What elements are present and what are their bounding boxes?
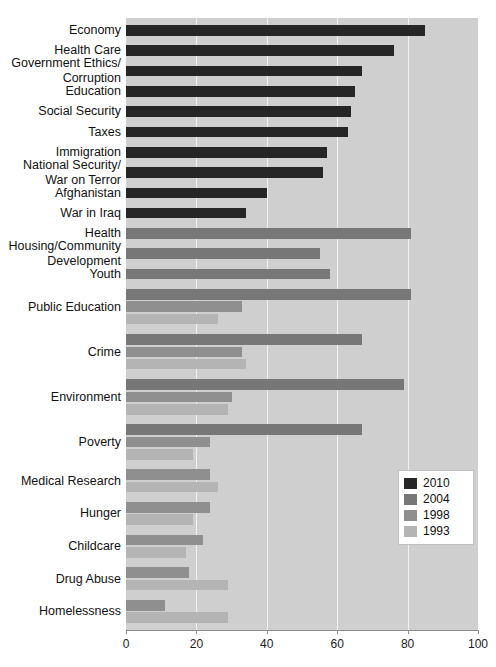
bar-1993	[126, 612, 228, 623]
bar-2010	[126, 127, 348, 138]
category-label: War in Iraq	[0, 206, 121, 221]
bar-2010	[126, 106, 351, 117]
bar-2004	[126, 424, 362, 435]
bar-1998	[126, 502, 210, 513]
bar-2010	[126, 86, 355, 97]
category-label: Childcare	[0, 539, 121, 554]
category-label: Government Ethics/Corruption	[0, 56, 121, 85]
bar-1993	[126, 404, 228, 415]
tick-mark-40	[267, 630, 268, 634]
bar-2004	[126, 379, 404, 390]
category-label: Taxes	[0, 125, 121, 140]
bar-2004	[126, 289, 411, 300]
bar-chart: EconomyHealth CareGovernment Ethics/Corr…	[0, 0, 496, 667]
bar-1993	[126, 314, 218, 325]
bar-row	[126, 106, 478, 117]
bar-row	[126, 188, 478, 199]
bar-1998	[126, 437, 210, 448]
bar-1993	[126, 449, 193, 460]
x-tick-label: 100	[468, 637, 488, 651]
category-label: Crime	[0, 345, 121, 360]
legend-item: 2010	[404, 476, 467, 491]
bar-row	[126, 289, 478, 300]
category-label: Environment	[0, 390, 121, 405]
bar-row	[126, 86, 478, 97]
category-label-line: Taxes	[0, 125, 121, 140]
bar-1993	[126, 547, 186, 558]
tick-mark-100	[478, 630, 479, 634]
bar-2010	[126, 45, 394, 56]
bar-row	[126, 167, 478, 178]
category-label-line: Housing/Community	[0, 239, 121, 254]
tick-mark-80	[408, 630, 409, 634]
bar-row	[126, 269, 478, 280]
bar-row	[126, 567, 478, 578]
bar-1993	[126, 514, 193, 525]
category-label-line: Hunger	[0, 506, 121, 521]
category-label: Youth	[0, 267, 121, 282]
category-label-line: Environment	[0, 390, 121, 405]
category-label-line: War in Iraq	[0, 206, 121, 221]
bar-row	[126, 379, 478, 390]
category-label-line: Homelessness	[0, 604, 121, 619]
bar-row	[126, 600, 478, 611]
bar-row	[126, 392, 478, 403]
category-label-line: Medical Research	[0, 474, 121, 489]
bar-1998	[126, 567, 189, 578]
bar-row	[126, 347, 478, 358]
category-label: Hunger	[0, 506, 121, 521]
category-label: Public Education	[0, 300, 121, 315]
category-label-line: Social Security	[0, 104, 121, 119]
legend-swatch-icon	[404, 510, 417, 521]
bar-1993	[126, 580, 228, 591]
legend-swatch-icon	[404, 478, 417, 489]
bar-2010	[126, 188, 267, 199]
bar-1998	[126, 347, 242, 358]
category-label: Homelessness	[0, 604, 121, 619]
legend: 2010200419981993	[398, 470, 474, 545]
legend-swatch-icon	[404, 526, 417, 537]
x-tick-label: 60	[331, 637, 344, 651]
category-label: Afghanistan	[0, 186, 121, 201]
bar-row	[126, 424, 478, 435]
bar-row	[126, 612, 478, 623]
legend-item: 1993	[404, 524, 467, 539]
legend-label: 1993	[423, 525, 450, 538]
bar-row	[126, 449, 478, 460]
bar-2004	[126, 248, 320, 259]
bar-row	[126, 580, 478, 591]
bar-row	[126, 547, 478, 558]
tick-mark-0	[126, 630, 127, 634]
category-label-line: National Security/	[0, 158, 121, 173]
x-axis-line	[126, 630, 479, 631]
bar-1993	[126, 359, 246, 370]
bar-row	[126, 359, 478, 370]
bar-1998	[126, 535, 203, 546]
bar-row	[126, 404, 478, 415]
category-label-line: Economy	[0, 23, 121, 38]
category-label-line: Youth	[0, 267, 121, 282]
bar-row	[126, 334, 478, 345]
category-label: Medical Research	[0, 474, 121, 489]
bar-row	[126, 66, 478, 77]
tick-mark-60	[337, 630, 338, 634]
bar-row	[126, 25, 478, 36]
legend-item: 2004	[404, 492, 467, 507]
bar-1998	[126, 600, 165, 611]
legend-swatch-icon	[404, 494, 417, 505]
bar-row	[126, 248, 478, 259]
bar-2004	[126, 228, 411, 239]
category-label: Housing/CommunityDevelopment	[0, 239, 121, 268]
category-label: National Security/War on Terror	[0, 158, 121, 187]
bar-row	[126, 147, 478, 158]
x-tick-label: 80	[401, 637, 414, 651]
bar-row	[126, 208, 478, 219]
legend-label: 2010	[423, 477, 450, 490]
bar-1998	[126, 301, 242, 312]
bar-1998	[126, 469, 210, 480]
bar-row	[126, 437, 478, 448]
bar-row	[126, 301, 478, 312]
bar-row	[126, 228, 478, 239]
bar-2010	[126, 66, 362, 77]
bar-1993	[126, 482, 218, 493]
